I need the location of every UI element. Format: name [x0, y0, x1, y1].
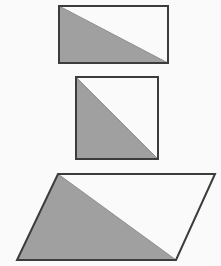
geometry-figure-svg — [0, 0, 221, 266]
geometry-figure-canvas — [0, 0, 221, 266]
